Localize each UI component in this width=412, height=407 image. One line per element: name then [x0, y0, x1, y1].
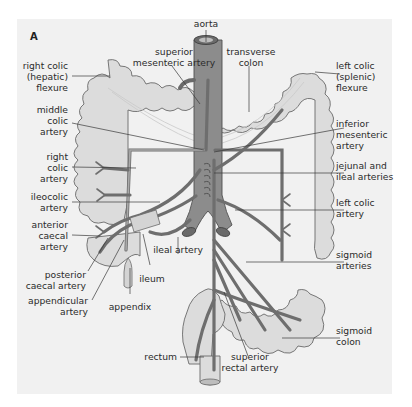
label-sigmoid-arteries-1: sigmoid — [336, 249, 372, 260]
label-transverse-colon-1: transverse — [227, 46, 276, 57]
label-rectum: rectum — [144, 351, 177, 362]
label-jejunal-ileal-arteries-2: ileal arteries — [336, 171, 394, 182]
label-appendicular-artery-2: artery — [60, 306, 88, 317]
label-left-colic-flexure-3: flexure — [336, 82, 368, 93]
label-appendix: appendix — [109, 301, 152, 312]
label-posterior-caecal-artery-2: caecal artery — [26, 280, 87, 291]
label-sigmoid-colon-2: colon — [336, 336, 361, 347]
label-anterior-caecal-artery-2: caecal — [38, 230, 68, 241]
label-right-colic-flexure-2: (hepatic) — [27, 71, 68, 82]
label-ileocolic-artery-2: artery — [40, 202, 68, 213]
colon-arterial-supply-diagram: A — [0, 0, 412, 407]
label-posterior-caecal-artery-1: posterior — [45, 269, 86, 280]
label-superior-mesenteric-artery-2: mesenteric artery — [133, 57, 216, 68]
label-anterior-caecal-artery-1: anterior — [32, 219, 69, 230]
label-right-colic-artery-3: artery — [40, 173, 68, 184]
label-right-colic-artery-1: right — [46, 151, 68, 162]
label-right-colic-artery-2: colic — [47, 162, 68, 173]
label-ileum: ileum — [139, 273, 165, 284]
label-ileocolic-artery-1: ileocolic — [31, 191, 68, 202]
label-aorta: aorta — [194, 18, 218, 29]
label-superior-rectal-artery-2: rectal artery — [222, 362, 279, 373]
label-appendicular-artery-1: appendicular — [28, 295, 88, 306]
label-ileal-artery: ileal artery — [153, 244, 203, 255]
label-superior-rectal-artery-1: superior — [231, 351, 269, 362]
label-left-colic-flexure-2: (splenic) — [336, 71, 375, 82]
label-right-colic-flexure-3: flexure — [36, 82, 68, 93]
label-middle-colic-artery-3: artery — [40, 126, 68, 137]
label-right-colic-flexure-1: right colic — [23, 60, 68, 71]
label-jejunal-ileal-arteries-1: jejunal and — [335, 160, 387, 171]
label-sigmoid-arteries-2: arteries — [336, 260, 372, 271]
label-inferior-mesenteric-artery-1: inferior — [336, 118, 369, 129]
label-anterior-caecal-artery-3: artery — [40, 241, 68, 252]
label-sigmoid-colon-1: sigmoid — [336, 325, 372, 336]
label-middle-colic-artery-2: colic — [47, 115, 68, 126]
label-left-colic-artery-2: artery — [336, 208, 364, 219]
panel-label: A — [30, 31, 38, 42]
label-inferior-mesenteric-artery-3: artery — [336, 140, 364, 151]
label-left-colic-artery-1: left colic — [336, 197, 375, 208]
label-inferior-mesenteric-artery-2: mesenteric — [336, 129, 388, 140]
label-left-colic-flexure-1: left colic — [336, 60, 375, 71]
label-transverse-colon-2: colon — [239, 57, 264, 68]
label-middle-colic-artery-1: middle — [37, 104, 69, 115]
label-superior-mesenteric-artery-1: superior — [155, 46, 193, 57]
